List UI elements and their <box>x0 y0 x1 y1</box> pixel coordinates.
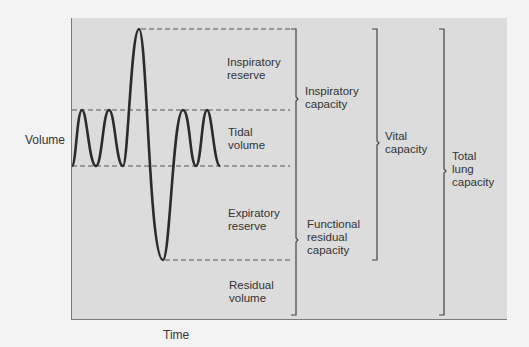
inspiratory-capacity-bracket <box>291 29 298 166</box>
x-axis-label: Time <box>163 328 189 342</box>
functional-residual-capacity-label: Functional residual capacity <box>307 218 360 257</box>
total-lung-capacity-label: Total lung capacity <box>452 150 494 189</box>
inspiratory-reserve-label: Inspiratory reserve <box>227 56 281 82</box>
capacity-brackets <box>291 29 446 315</box>
vital-capacity-bracket <box>372 29 379 260</box>
residual-volume-label: Residual volume <box>229 279 274 305</box>
total-lung-capacity-bracket <box>439 29 446 315</box>
breathing-curve <box>72 29 220 260</box>
frc-bracket <box>291 166 298 315</box>
tidal-volume-label: Tidal volume <box>228 126 265 152</box>
inspiratory-capacity-label: Inspiratory capacity <box>305 85 359 111</box>
expiratory-reserve-label: Expiratory reserve <box>228 207 280 233</box>
vital-capacity-label: Vital capacity <box>385 130 427 156</box>
y-axis-label: Volume <box>25 133 65 147</box>
